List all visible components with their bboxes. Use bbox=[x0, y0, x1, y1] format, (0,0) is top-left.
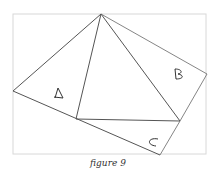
edge-inner-right-c-bottom bbox=[160, 121, 180, 155]
edge-apex-b-corner bbox=[101, 14, 207, 74]
edge-apex-left bbox=[13, 14, 101, 91]
label-c-glyph bbox=[149, 139, 158, 146]
label-b-glyph bbox=[175, 69, 182, 79]
edge-inner-horizontal bbox=[76, 119, 180, 121]
edge-apex-inner-left bbox=[76, 14, 101, 119]
edge-b-corner-inner-right bbox=[180, 74, 207, 121]
label-a-glyph bbox=[54, 88, 63, 98]
edge-left-bottom bbox=[13, 91, 160, 155]
figure-caption: figure 9 bbox=[0, 158, 216, 168]
geometry-diagram bbox=[0, 0, 216, 174]
edge-apex-inner-right bbox=[101, 14, 180, 121]
